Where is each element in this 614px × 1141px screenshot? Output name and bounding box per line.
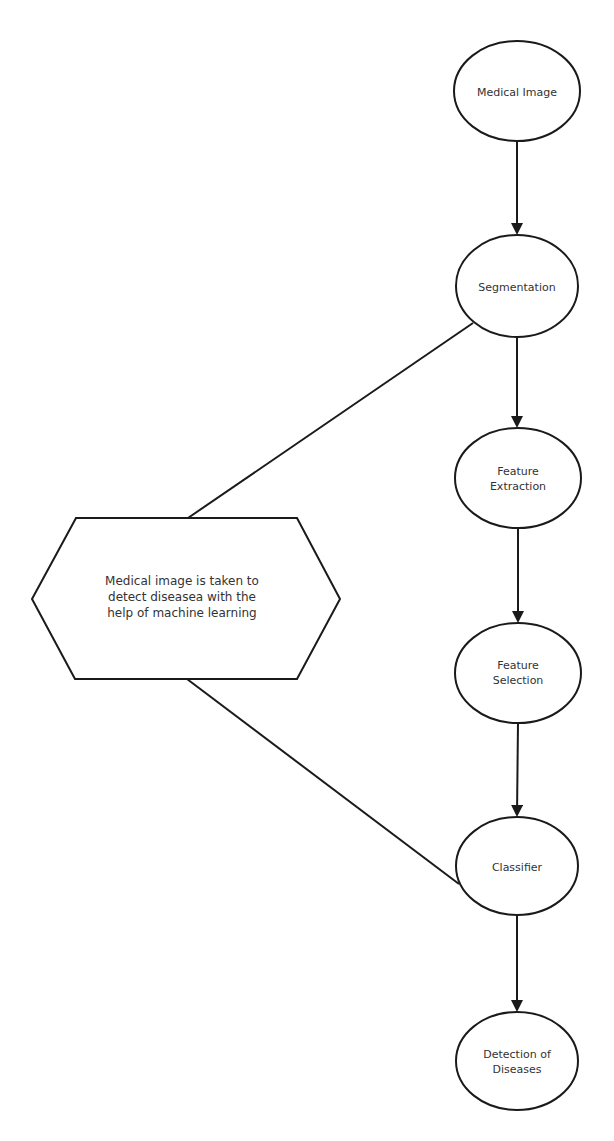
- node-segmentation-label: Segmentation: [478, 280, 555, 295]
- node-medical-image-label: Medical Image: [477, 85, 557, 100]
- node-classifier-label: Classifier: [492, 860, 542, 875]
- annotation-connector-segmentation: [188, 323, 473, 518]
- node-feature-extraction-label: Feature Extraction: [490, 464, 546, 494]
- annotation-hexagon-label: Medical image is taken to detect disease…: [105, 573, 259, 621]
- node-detection-of-diseases-label: Detection of Diseases: [483, 1047, 551, 1077]
- node-feature-selection-label: Feature Selection: [493, 658, 544, 688]
- edge-feature-selection-to-classifier: [517, 723, 518, 815]
- flowchart-canvas: [0, 0, 614, 1141]
- annotation-connector-classifier: [187, 679, 459, 884]
